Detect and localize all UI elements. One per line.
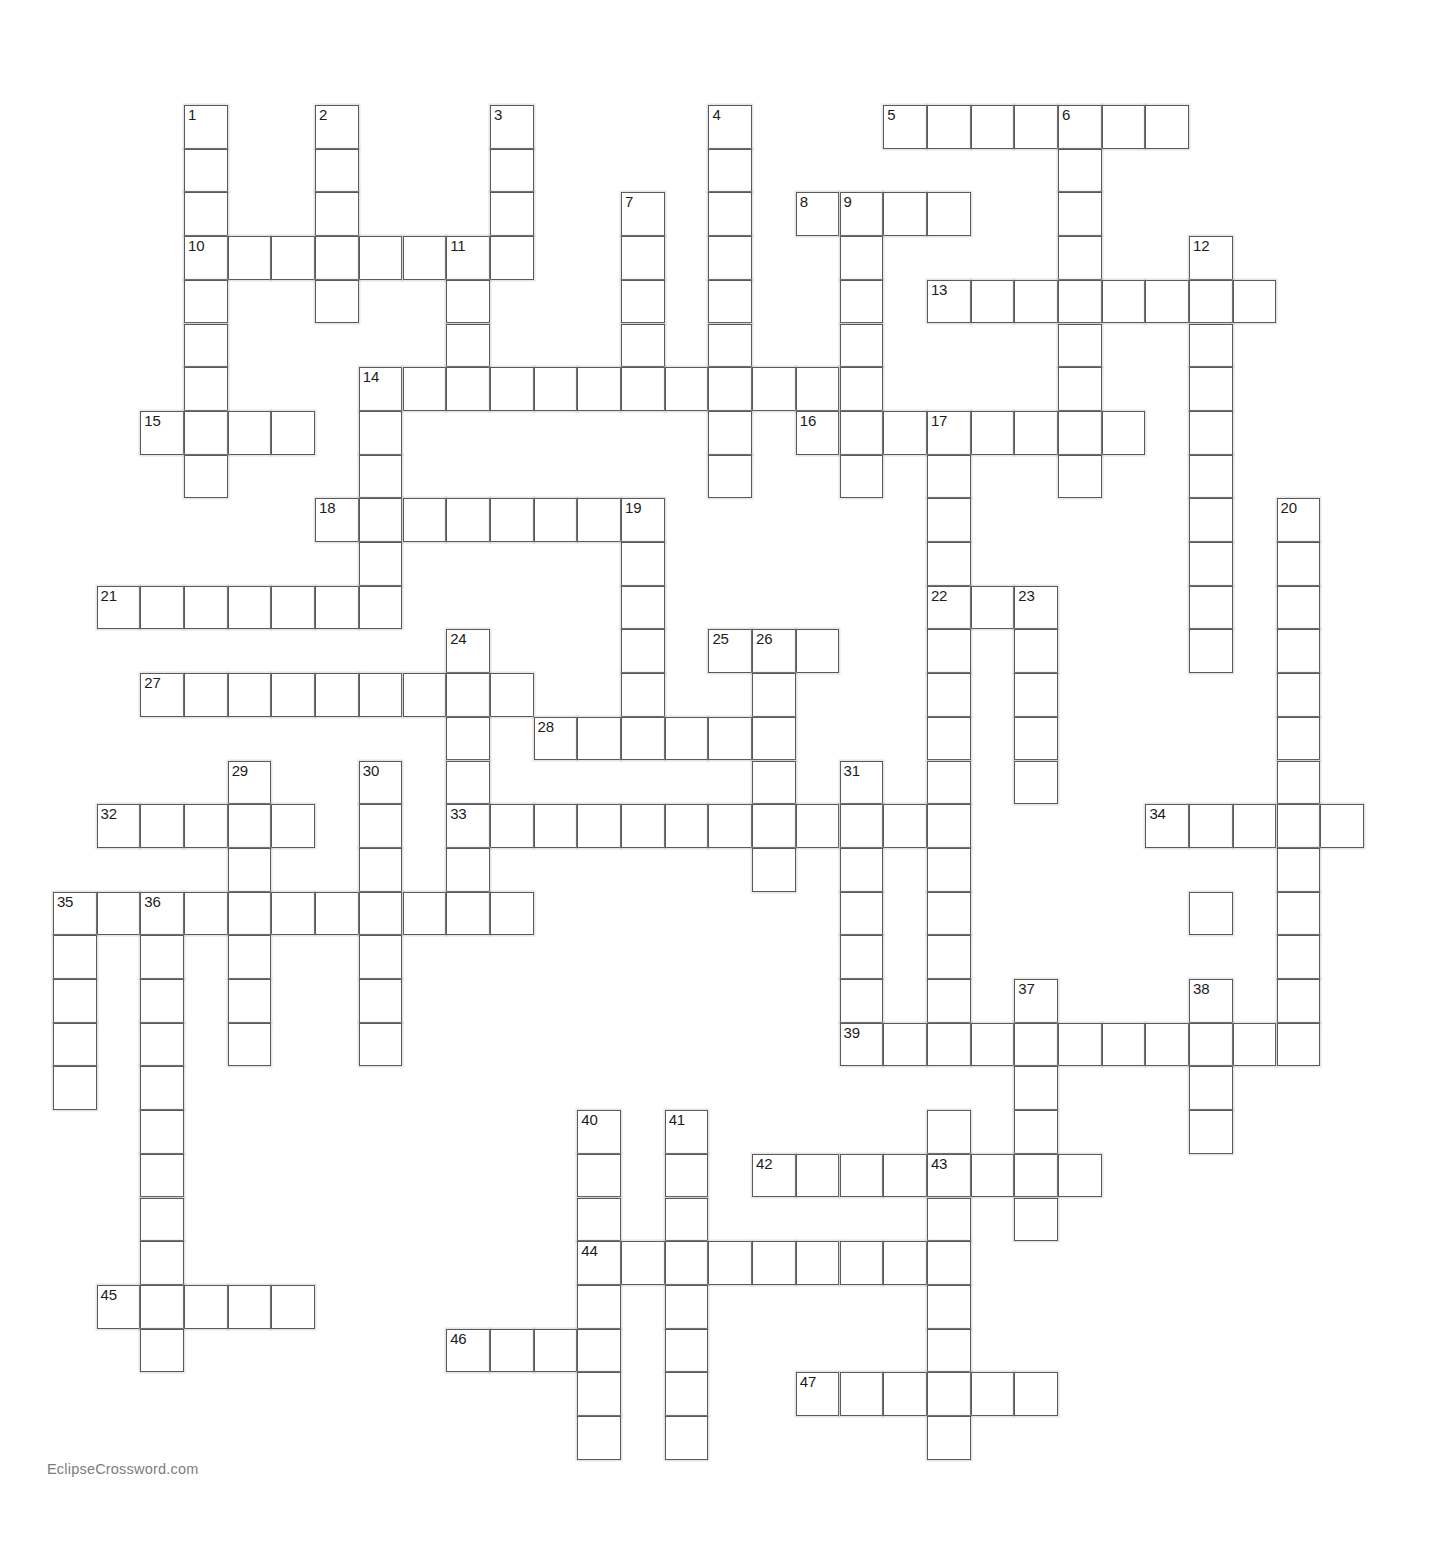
- crossword-cell[interactable]: [927, 1110, 971, 1154]
- crossword-cell[interactable]: [840, 324, 884, 368]
- crossword-cell[interactable]: [228, 979, 272, 1023]
- crossword-cell[interactable]: [665, 804, 709, 848]
- crossword-cell-start-37[interactable]: 37: [1014, 979, 1058, 1023]
- crossword-cell[interactable]: [665, 1198, 709, 1242]
- crossword-cell[interactable]: [184, 149, 228, 193]
- crossword-cell[interactable]: [140, 1285, 184, 1329]
- crossword-cell[interactable]: [1014, 629, 1058, 673]
- crossword-cell[interactable]: [1277, 629, 1321, 673]
- crossword-cell[interactable]: [271, 1285, 315, 1329]
- crossword-cell[interactable]: [315, 280, 359, 324]
- crossword-cell[interactable]: [140, 1154, 184, 1198]
- crossword-cell-start-25[interactable]: 25: [708, 629, 752, 673]
- crossword-cell[interactable]: [927, 892, 971, 936]
- crossword-cell[interactable]: [1102, 105, 1146, 149]
- crossword-cell[interactable]: [1189, 892, 1233, 936]
- crossword-cell[interactable]: [708, 717, 752, 761]
- crossword-cell[interactable]: [1014, 411, 1058, 455]
- crossword-cell[interactable]: [840, 236, 884, 280]
- crossword-cell[interactable]: [752, 1241, 796, 1285]
- crossword-cell[interactable]: [359, 586, 403, 630]
- crossword-cell-start-29[interactable]: 29: [228, 761, 272, 805]
- crossword-cell[interactable]: [708, 236, 752, 280]
- crossword-cell[interactable]: [490, 498, 534, 542]
- crossword-cell-start-27[interactable]: 27: [140, 673, 184, 717]
- crossword-cell-start-8[interactable]: 8: [796, 192, 840, 236]
- crossword-cell-start-15[interactable]: 15: [140, 411, 184, 455]
- crossword-cell-start-31[interactable]: 31: [840, 761, 884, 805]
- crossword-cell[interactable]: [1058, 192, 1102, 236]
- crossword-cell[interactable]: [796, 1154, 840, 1198]
- crossword-cell[interactable]: [1058, 1023, 1102, 1067]
- crossword-cell[interactable]: [1320, 804, 1364, 848]
- crossword-cell[interactable]: [927, 804, 971, 848]
- crossword-cell[interactable]: [403, 892, 447, 936]
- crossword-cell[interactable]: [1145, 105, 1189, 149]
- crossword-cell[interactable]: [840, 804, 884, 848]
- crossword-cell[interactable]: [840, 367, 884, 411]
- crossword-cell[interactable]: [184, 192, 228, 236]
- crossword-cell[interactable]: [708, 149, 752, 193]
- crossword-cell-start-35[interactable]: 35: [53, 892, 97, 936]
- crossword-cell[interactable]: [359, 804, 403, 848]
- crossword-cell[interactable]: [840, 848, 884, 892]
- crossword-cell-start-40[interactable]: 40: [577, 1110, 621, 1154]
- crossword-cell[interactable]: [1277, 804, 1321, 848]
- crossword-cell[interactable]: [184, 586, 228, 630]
- crossword-cell-start-44[interactable]: 44: [577, 1241, 621, 1285]
- crossword-cell[interactable]: [708, 280, 752, 324]
- crossword-cell[interactable]: [621, 367, 665, 411]
- crossword-cell[interactable]: [271, 586, 315, 630]
- crossword-cell[interactable]: [752, 848, 796, 892]
- crossword-cell[interactable]: [140, 1066, 184, 1110]
- crossword-cell[interactable]: [184, 455, 228, 499]
- crossword-cell-start-18[interactable]: 18: [315, 498, 359, 542]
- crossword-cell[interactable]: [796, 629, 840, 673]
- crossword-cell[interactable]: [359, 1023, 403, 1067]
- crossword-cell[interactable]: [315, 149, 359, 193]
- crossword-cell[interactable]: [359, 411, 403, 455]
- crossword-cell-start-9[interactable]: 9: [840, 192, 884, 236]
- crossword-cell[interactable]: [315, 673, 359, 717]
- crossword-cell[interactable]: [228, 586, 272, 630]
- crossword-cell[interactable]: [490, 892, 534, 936]
- crossword-cell[interactable]: [927, 192, 971, 236]
- crossword-cell[interactable]: [1277, 673, 1321, 717]
- crossword-cell[interactable]: [228, 1023, 272, 1067]
- crossword-cell[interactable]: [359, 542, 403, 586]
- crossword-cell[interactable]: [708, 411, 752, 455]
- crossword-cell-start-22[interactable]: 22: [927, 586, 971, 630]
- crossword-cell[interactable]: [883, 192, 927, 236]
- crossword-cell[interactable]: [665, 1154, 709, 1198]
- crossword-cell[interactable]: [1014, 717, 1058, 761]
- crossword-cell[interactable]: [577, 1416, 621, 1460]
- crossword-cell[interactable]: [883, 1372, 927, 1416]
- crossword-cell[interactable]: [1145, 280, 1189, 324]
- crossword-cell[interactable]: [1189, 1066, 1233, 1110]
- crossword-cell[interactable]: [140, 1241, 184, 1285]
- crossword-cell[interactable]: [446, 280, 490, 324]
- crossword-cell[interactable]: [1058, 1154, 1102, 1198]
- crossword-cell-start-13[interactable]: 13: [927, 280, 971, 324]
- crossword-cell-start-19[interactable]: 19: [621, 498, 665, 542]
- crossword-cell[interactable]: [883, 804, 927, 848]
- crossword-cell[interactable]: [359, 673, 403, 717]
- crossword-cell[interactable]: [315, 192, 359, 236]
- crossword-cell-start-14[interactable]: 14: [359, 367, 403, 411]
- crossword-cell[interactable]: [184, 280, 228, 324]
- crossword-cell[interactable]: [621, 236, 665, 280]
- crossword-cell[interactable]: [621, 804, 665, 848]
- crossword-cell[interactable]: [446, 848, 490, 892]
- crossword-cell[interactable]: [359, 848, 403, 892]
- crossword-cell[interactable]: [840, 455, 884, 499]
- crossword-cell[interactable]: [1277, 848, 1321, 892]
- crossword-cell-start-3[interactable]: 3: [490, 105, 534, 149]
- crossword-cell[interactable]: [228, 848, 272, 892]
- crossword-cell[interactable]: [228, 673, 272, 717]
- crossword-cell[interactable]: [708, 455, 752, 499]
- crossword-cell[interactable]: [577, 1285, 621, 1329]
- crossword-cell[interactable]: [1189, 1023, 1233, 1067]
- crossword-cell[interactable]: [708, 804, 752, 848]
- crossword-cell[interactable]: [752, 367, 796, 411]
- crossword-cell[interactable]: [708, 192, 752, 236]
